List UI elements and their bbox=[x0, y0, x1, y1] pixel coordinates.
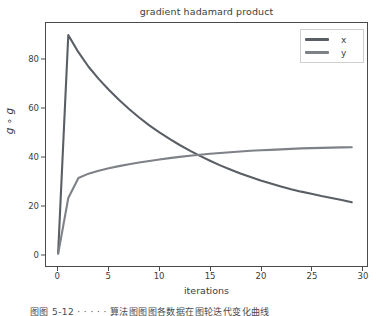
x-tick-mark bbox=[108, 267, 109, 271]
x-tick-label: 20 bbox=[241, 271, 281, 281]
x-tick-mark bbox=[362, 267, 363, 271]
x-tick-mark bbox=[261, 267, 262, 271]
legend-item-y[interactable]: y bbox=[305, 46, 359, 59]
series-line-y bbox=[58, 147, 352, 254]
x-tick-label: 5 bbox=[88, 271, 128, 281]
series-line-x bbox=[58, 35, 352, 253]
x-axis-label: iterations bbox=[45, 285, 368, 296]
page-caption-text: 图图 5-12 · · · · · 算法图图图各数据在图轮迭代变化曲线 bbox=[30, 307, 270, 316]
x-tick-label: 25 bbox=[292, 271, 332, 281]
y-tick-label: 40 bbox=[0, 152, 39, 162]
chart-figure: gradient hadamard product g ∘ g iteratio… bbox=[0, 0, 379, 316]
y-tick-label: 80 bbox=[0, 54, 39, 64]
x-tick-mark bbox=[57, 267, 58, 271]
page-caption-strip: 图图 5-12 · · · · · 算法图图图各数据在图轮迭代变化曲线 bbox=[0, 307, 379, 316]
legend-label-x: x bbox=[341, 35, 346, 45]
y-tick-label: 0 bbox=[0, 250, 39, 260]
legend-label-y: y bbox=[341, 48, 346, 58]
legend-color-swatch-x bbox=[305, 38, 329, 41]
x-tick-label: 0 bbox=[37, 271, 77, 281]
x-tick-mark bbox=[311, 267, 312, 271]
y-tick-label: 60 bbox=[0, 103, 39, 113]
y-axis-label: g ∘ g bbox=[3, 91, 15, 151]
chart-legend[interactable]: x y bbox=[300, 29, 364, 63]
y-tick-label: 20 bbox=[0, 201, 39, 211]
x-tick-mark bbox=[159, 267, 160, 271]
chart-title: gradient hadamard product bbox=[45, 6, 368, 17]
x-tick-mark bbox=[210, 267, 211, 271]
x-tick-label: 30 bbox=[343, 271, 379, 281]
legend-color-swatch-y bbox=[305, 51, 329, 54]
legend-item-x[interactable]: x bbox=[305, 33, 359, 46]
x-tick-label: 10 bbox=[139, 271, 179, 281]
x-tick-label: 15 bbox=[190, 271, 230, 281]
